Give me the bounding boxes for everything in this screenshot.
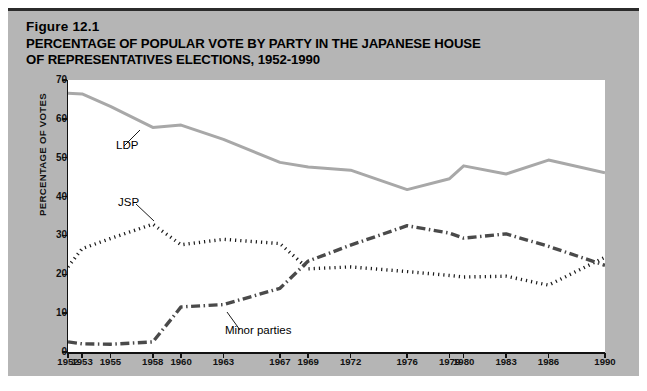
x-tick-mark [180, 353, 182, 358]
series-line-minor-parties [68, 226, 605, 345]
series-label-ldp: LDP [116, 139, 138, 151]
x-tick-mark [350, 353, 352, 358]
x-tick-mark [152, 353, 154, 358]
x-tick-mark [110, 353, 112, 358]
y-axis-ticks: 010203040506070 [34, 0, 67, 391]
x-tick-mark [406, 353, 408, 358]
annotation-leaders [124, 130, 240, 330]
x-tick-mark [223, 353, 225, 358]
series-line-jsp [68, 224, 605, 285]
x-tick-mark [81, 353, 83, 358]
x-tick-mark [604, 353, 606, 358]
series-canvas [68, 80, 605, 352]
x-tick-mark [463, 353, 465, 358]
x-axis-line [67, 352, 605, 354]
figure-title-block: Figure 12.1 PERCENTAGE OF POPULAR VOTE B… [26, 19, 626, 67]
x-tick-mark [307, 353, 309, 358]
figure-title: PERCENTAGE OF POPULAR VOTE BY PARTY IN T… [26, 36, 626, 67]
series-group [68, 93, 605, 344]
plot-area [68, 80, 605, 352]
figure-root: Figure 12.1 PERCENTAGE OF POPULAR VOTE B… [0, 0, 647, 391]
series-label-jsp: JSP [118, 196, 139, 208]
x-tick-mark [279, 353, 281, 358]
series-line-ldp [68, 93, 605, 189]
x-tick-mark [548, 353, 550, 358]
x-tick-mark [67, 353, 69, 358]
x-tick-mark [505, 353, 507, 358]
figure-number: Figure 12.1 [26, 19, 626, 35]
x-tick-mark [449, 353, 451, 358]
series-label-minor: Minor parties [225, 324, 291, 336]
